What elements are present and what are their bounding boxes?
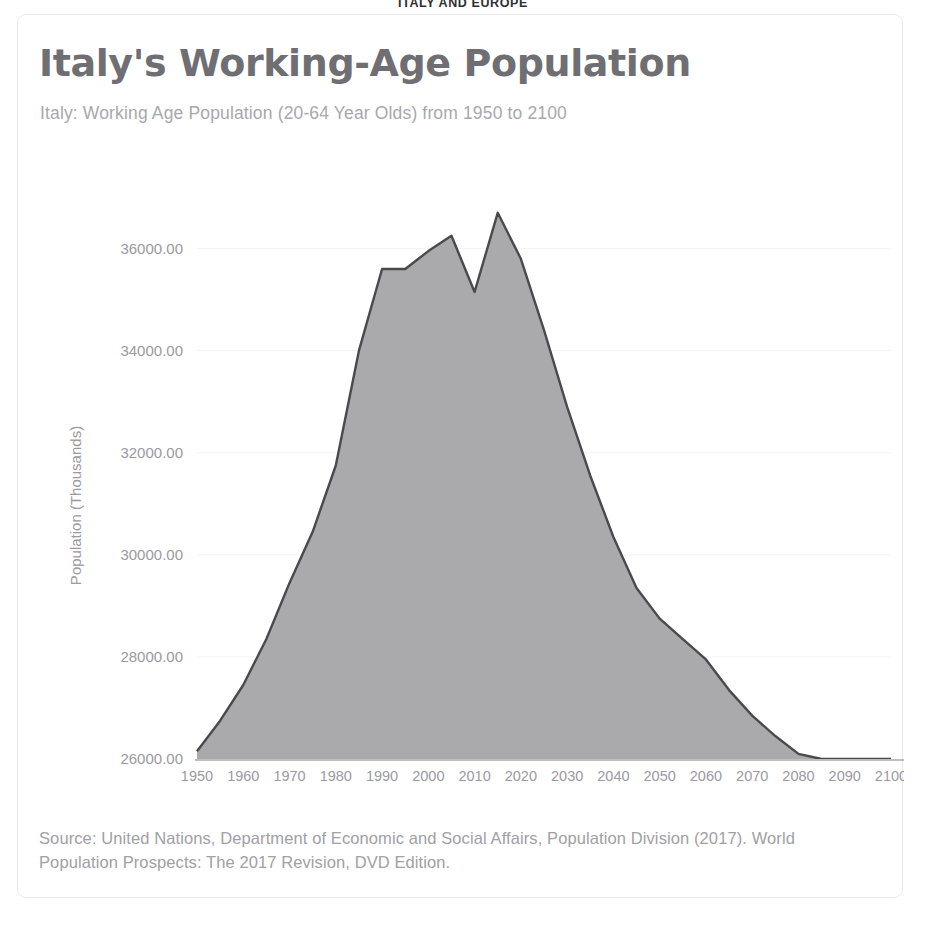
svg-text:2050: 2050 [644, 768, 676, 784]
svg-text:2030: 2030 [551, 768, 583, 784]
svg-text:2080: 2080 [782, 768, 814, 784]
chart-subtitle: Italy: Working Age Population (20-64 Yea… [40, 103, 567, 124]
svg-text:30000.00: 30000.00 [120, 546, 183, 563]
svg-text:1990: 1990 [366, 768, 398, 784]
svg-text:2090: 2090 [829, 768, 861, 784]
series-line-path [197, 213, 891, 759]
chart-source-note: Source: United Nations, Department of Ec… [39, 827, 839, 875]
svg-text:1970: 1970 [273, 768, 305, 784]
svg-text:2000: 2000 [412, 768, 444, 784]
chart-title: Italy's Working-Age Population [39, 41, 691, 85]
svg-text:2020: 2020 [505, 768, 537, 784]
x-axis-tick-labels: 1950196019701980199020002010202020302040… [181, 768, 904, 784]
y-axis-tick-labels: 26000.0028000.0030000.0032000.0034000.00… [120, 240, 183, 767]
svg-text:2070: 2070 [736, 768, 768, 784]
svg-text:32000.00: 32000.00 [120, 444, 183, 461]
series-area-path [197, 213, 891, 759]
svg-text:34000.00: 34000.00 [120, 342, 183, 359]
chart-plot-area: 26000.0028000.0030000.0032000.0034000.00… [18, 15, 904, 899]
svg-text:1980: 1980 [320, 768, 352, 784]
y-axis-title: Population (Thousands) [67, 426, 84, 585]
svg-text:28000.00: 28000.00 [120, 648, 183, 665]
svg-text:2060: 2060 [690, 768, 722, 784]
svg-text:1960: 1960 [227, 768, 259, 784]
svg-text:2040: 2040 [597, 768, 629, 784]
svg-text:2010: 2010 [458, 768, 490, 784]
chart-series-area [197, 213, 891, 759]
chart-gridlines [197, 249, 891, 657]
chart-card: Italy's Working-Age Population Italy: Wo… [17, 14, 903, 898]
svg-text:26000.00: 26000.00 [120, 750, 183, 767]
svg-text:1950: 1950 [181, 768, 213, 784]
svg-text:2100: 2100 [875, 768, 904, 784]
svg-text:36000.00: 36000.00 [120, 240, 183, 257]
area-chart-svg: 26000.0028000.0030000.0032000.0034000.00… [18, 15, 904, 899]
page-banner-title: ITALY AND EUROPE [0, 0, 926, 10]
